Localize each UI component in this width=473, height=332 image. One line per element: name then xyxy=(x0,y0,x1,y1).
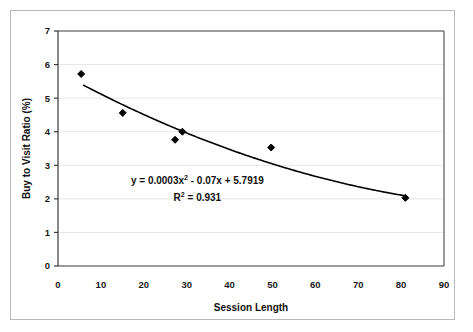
plot-area-border xyxy=(58,31,444,266)
x-axis-tick-labels: 0102030405060708090 xyxy=(55,279,449,290)
r-squared-label: R2 = 0.931 xyxy=(174,191,222,203)
x-tick-label-20: 20 xyxy=(138,279,149,290)
data-point-marker xyxy=(179,128,186,135)
y-tick-label-4: 4 xyxy=(45,126,51,137)
data-point-marker xyxy=(172,136,179,143)
x-tick-label-10: 10 xyxy=(96,279,107,290)
trendline-equation-label: y = 0.0003x2 - 0.07x + 5.7919 xyxy=(131,174,264,186)
equation-suffix: - 0.07x + 5.7919 xyxy=(188,175,264,186)
x-tick-label-70: 70 xyxy=(353,279,364,290)
scatter-chart: 01234567 0102030405060708090 Buy to Visi… xyxy=(11,11,454,319)
equation-prefix: y = 0.0003x xyxy=(131,175,185,186)
y-tick-label-6: 6 xyxy=(45,59,50,70)
y-tick-label-5: 5 xyxy=(45,93,51,104)
x-tick-label-40: 40 xyxy=(224,279,235,290)
x-tick-label-80: 80 xyxy=(396,279,407,290)
y-tick-label-1: 1 xyxy=(45,227,51,238)
x-tick-label-0: 0 xyxy=(55,279,60,290)
data-point-marker xyxy=(78,70,85,77)
y-tick-label-0: 0 xyxy=(45,260,50,271)
x-tick-label-60: 60 xyxy=(310,279,321,290)
x-tick-label-90: 90 xyxy=(439,279,450,290)
y-axis-tick-labels: 01234567 xyxy=(45,25,58,271)
x-axis-title: Session Length xyxy=(214,302,288,313)
data-point-marker xyxy=(268,144,275,151)
x-tick-label-50: 50 xyxy=(267,279,278,290)
y-axis-title: Buy to Visit Ratio (%) xyxy=(21,98,32,199)
data-point-marker xyxy=(119,109,126,116)
gridline-group xyxy=(58,65,444,233)
y-tick-label-7: 7 xyxy=(45,25,50,36)
rsq-suffix: = 0.931 xyxy=(185,192,222,203)
x-tick-label-30: 30 xyxy=(181,279,192,290)
chart-figure: 01234567 0102030405060708090 Buy to Visi… xyxy=(0,0,473,332)
y-tick-label-2: 2 xyxy=(45,193,50,204)
figure-border: 01234567 0102030405060708090 Buy to Visi… xyxy=(10,10,455,320)
y-tick-label-3: 3 xyxy=(45,160,50,171)
